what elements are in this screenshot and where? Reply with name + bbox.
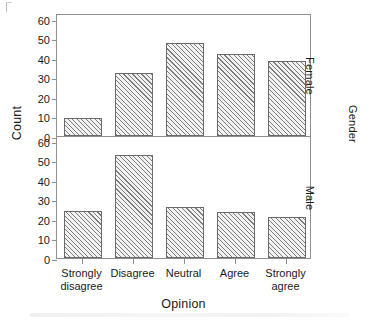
- x-axis-tick: [133, 259, 134, 264]
- y-axis-tick: [52, 162, 57, 163]
- x-axis-tick: [235, 259, 236, 264]
- plot-area-female: 0102030405060: [57, 15, 310, 136]
- y-axis-tick: [52, 21, 57, 22]
- y-axis-tick-label: 60: [28, 137, 50, 149]
- y-axis-tick-label: 50: [28, 156, 50, 168]
- y-axis-tick-label: 0: [28, 254, 50, 266]
- y-axis-tick: [52, 60, 57, 61]
- y-axis-tick: [52, 221, 57, 222]
- bar-female-strongly-agree: [268, 61, 306, 136]
- y-axis-tick: [52, 118, 57, 119]
- y-axis-tick-label: 20: [28, 215, 50, 227]
- y-axis-tick-label: 40: [28, 176, 50, 188]
- panel-female: 0102030405060 Female: [56, 14, 311, 137]
- panel-strip-label-male: Male: [304, 163, 316, 233]
- bar-male-disagree: [115, 155, 153, 258]
- y-axis-tick-label: 40: [28, 54, 50, 66]
- y-axis-tick: [52, 143, 57, 144]
- panel-group-label-gender: Gender: [347, 89, 359, 159]
- y-axis-title: Count: [10, 78, 24, 168]
- panel-strip-label-female: Female: [304, 41, 316, 111]
- y-axis-tick-label: 10: [28, 112, 50, 124]
- bar-male-agree: [217, 212, 255, 258]
- y-axis-tick: [52, 79, 57, 80]
- y-axis-tick-label: 50: [28, 34, 50, 46]
- bar-male-strongly-agree: [268, 217, 306, 258]
- bar-female-neutral: [166, 43, 204, 136]
- bar-female-disagree: [115, 73, 153, 136]
- y-axis-tick: [52, 201, 57, 202]
- y-axis-tick: [52, 182, 57, 183]
- x-axis-tick: [286, 259, 287, 264]
- bar-female-agree: [217, 54, 255, 136]
- page-corner-mark: [6, 2, 12, 12]
- bar-male-strongly-disagree: [64, 211, 102, 258]
- caption-artifact: [30, 313, 350, 317]
- y-axis-tick: [52, 240, 57, 241]
- bar-female-strongly-disagree: [64, 118, 102, 136]
- x-axis-tick-label: Stronglyagree: [248, 267, 324, 292]
- y-axis-tick-label: 10: [28, 234, 50, 246]
- y-axis-tick-label: 30: [28, 73, 50, 85]
- x-axis-title: Opinion: [56, 297, 311, 311]
- panel-male: 0102030405060 Male: [56, 136, 311, 259]
- y-axis-tick-label: 20: [28, 93, 50, 105]
- chart-figure: Count Gender 0102030405060 Female 010203…: [0, 0, 374, 321]
- x-axis-tick: [184, 259, 185, 264]
- y-axis-tick-label: 60: [28, 15, 50, 27]
- y-axis-tick: [52, 99, 57, 100]
- x-axis-tick: [82, 259, 83, 264]
- plot-area-male: 0102030405060: [57, 137, 310, 258]
- y-axis-tick: [52, 40, 57, 41]
- y-axis-tick-label: 30: [28, 195, 50, 207]
- bar-male-neutral: [166, 207, 204, 258]
